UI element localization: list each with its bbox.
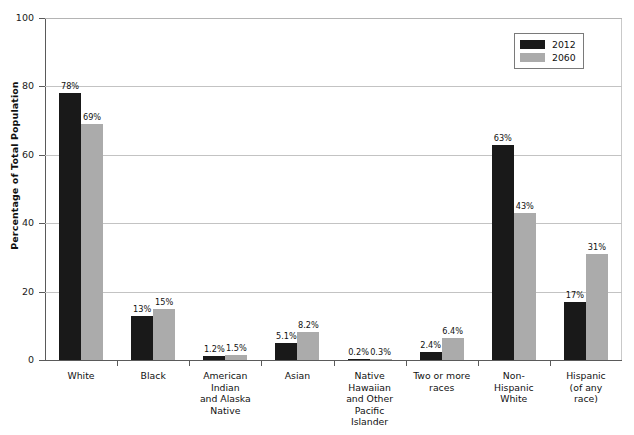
bar-2060-4 <box>370 359 392 360</box>
x-category-label-line: Hispanic <box>550 370 622 382</box>
x-category-label-line: Hawaiian <box>334 382 406 394</box>
bar-2012-1 <box>131 316 153 360</box>
y-tick-mark-60 <box>39 155 45 156</box>
x-category-label-line: Non- <box>478 370 550 382</box>
bar-2012-7 <box>564 302 586 360</box>
x-category-label-line: and Other <box>334 393 406 405</box>
bar-value-label-2060-5: 6.4% <box>434 326 472 336</box>
x-tick-mark-2 <box>189 361 190 366</box>
bar-value-label-2060-6: 43% <box>506 201 544 211</box>
legend-label-2012: 2012 <box>552 39 576 50</box>
bar-value-label-2060-3: 8.2% <box>289 320 327 330</box>
x-tick-mark-7 <box>550 361 551 366</box>
y-tick-mark-20 <box>39 292 45 293</box>
bar-2060-6 <box>514 213 536 360</box>
bar-2012-6 <box>492 145 514 360</box>
bar-2060-0 <box>81 124 103 360</box>
x-category-label-4: NativeHawaiianand OtherPacificIslander <box>334 370 406 428</box>
x-category-label-line: Asian <box>261 370 333 382</box>
gridline-100 <box>45 18 622 19</box>
bar-2012-4 <box>348 359 370 360</box>
bar-value-label-2060-2: 1.5% <box>217 343 255 353</box>
bar-value-label-2060-4: 0.3% <box>362 347 400 357</box>
chart-legend: 2012 2060 <box>514 33 584 69</box>
y-tick-mark-100 <box>39 18 45 19</box>
x-tick-mark-5 <box>406 361 407 366</box>
y-tick-mark-40 <box>39 223 45 224</box>
x-category-label-line: American <box>189 370 261 382</box>
x-category-label-7: Hispanic(of anyrace) <box>550 370 622 405</box>
x-category-label-line: Hispanic <box>478 382 550 394</box>
legend-item-2060: 2060 <box>520 51 576 64</box>
y-tick-label-0: 0 <box>8 354 34 365</box>
x-tick-mark-4 <box>334 361 335 366</box>
bar-2060-7 <box>586 254 608 360</box>
bar-value-label-2060-0: 69% <box>73 112 111 122</box>
bar-2012-3 <box>275 343 297 360</box>
legend-swatch-2060 <box>520 53 545 62</box>
bar-2012-5 <box>420 352 442 360</box>
bar-2060-3 <box>297 332 319 360</box>
x-category-label-line: and Alaska <box>189 393 261 405</box>
bar-value-label-2060-1: 15% <box>145 297 183 307</box>
bar-2060-1 <box>153 309 175 360</box>
y-tick-mark-80 <box>39 86 45 87</box>
y-axis-title: Percentage of Total Population <box>9 66 20 266</box>
x-category-label-line: race) <box>550 393 622 405</box>
y-axis-line <box>45 18 46 360</box>
x-category-label-line: White <box>45 370 117 382</box>
x-category-label-line: Pacific <box>334 405 406 417</box>
legend-item-2012: 2012 <box>520 38 576 51</box>
x-category-label-line: Black <box>117 370 189 382</box>
bar-value-label-2012-0: 78% <box>51 81 89 91</box>
bar-2060-2 <box>225 355 247 360</box>
x-tick-mark-3 <box>261 361 262 366</box>
x-category-label-line: White <box>478 393 550 405</box>
plot-right-border <box>621 18 622 360</box>
x-tick-mark-1 <box>117 361 118 366</box>
x-category-label-line: Indian <box>189 382 261 394</box>
x-tick-mark-6 <box>478 361 479 366</box>
legend-label-2060: 2060 <box>552 52 576 63</box>
y-tick-mark-0 <box>39 360 45 361</box>
x-category-label-line: races <box>406 382 478 394</box>
bar-2060-5 <box>442 338 464 360</box>
bar-2012-0 <box>59 93 81 360</box>
x-category-label-6: Non-HispanicWhite <box>478 370 550 405</box>
x-category-label-3: Asian <box>261 370 333 382</box>
y-tick-label-100: 100 <box>8 12 34 23</box>
legend-swatch-2012 <box>520 40 545 49</box>
x-category-label-0: White <box>45 370 117 382</box>
x-category-label-2: AmericanIndianand AlaskaNative <box>189 370 261 416</box>
bar-value-label-2012-6: 63% <box>484 133 522 143</box>
bar-value-label-2060-7: 31% <box>578 242 616 252</box>
x-category-label-5: Two or moreraces <box>406 370 478 393</box>
y-tick-label-20: 20 <box>8 286 34 297</box>
x-category-label-line: Two or more <box>406 370 478 382</box>
x-category-label-1: Black <box>117 370 189 382</box>
gridline-80 <box>45 86 622 87</box>
bar-2012-2 <box>203 356 225 360</box>
y-tick-label-40: 40 <box>8 217 34 228</box>
x-category-label-line: Native <box>189 405 261 417</box>
x-category-label-line: Native <box>334 370 406 382</box>
x-category-label-line: (of any <box>550 382 622 394</box>
x-category-label-line: Islander <box>334 416 406 428</box>
gridline-60 <box>45 155 622 156</box>
y-tick-label-80: 80 <box>8 80 34 91</box>
y-tick-label-60: 60 <box>8 149 34 160</box>
bar-chart-figure: Percentage of Total Population 020406080… <box>0 0 634 435</box>
